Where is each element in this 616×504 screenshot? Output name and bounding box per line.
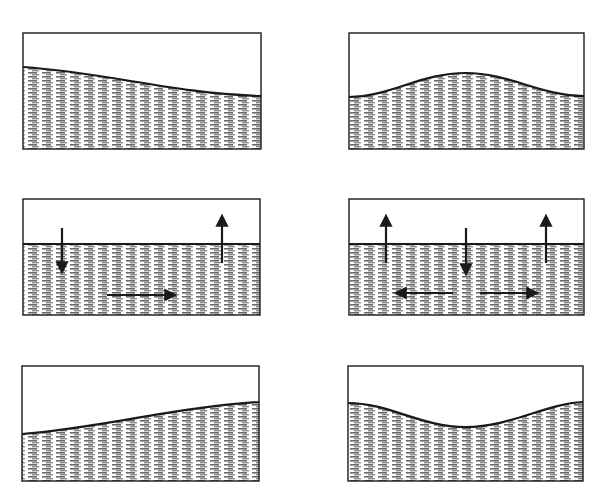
panel-right-top [349,33,584,149]
panel-left-top [23,33,261,149]
panel-left-bottom [22,366,259,481]
water-body [348,402,583,481]
water-body [349,73,584,149]
panel-right-middle [349,199,584,315]
panel-right-bottom [348,366,583,481]
water-body [22,402,259,481]
panel-left-middle [23,199,260,315]
water-body [23,67,261,149]
seiche-diagram [0,0,616,504]
diagram-canvas [0,0,616,504]
water-body [23,244,260,315]
